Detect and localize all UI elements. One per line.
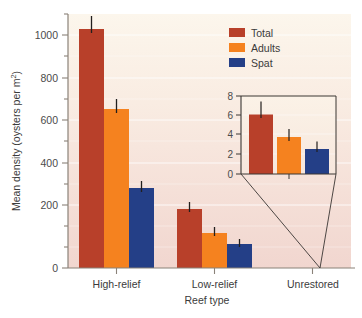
- y-tick-label-600: 600: [40, 114, 58, 126]
- x-label-low-relief: Low-relief: [192, 278, 238, 290]
- y-tick-label-800: 800: [40, 72, 58, 84]
- svg-text:Mean density (oysters per m2): Mean density (oysters per m2): [9, 71, 22, 211]
- bar-high-relief-total: [79, 29, 104, 268]
- bar-low-relief-total: [177, 209, 202, 268]
- legend-swatch-total: [229, 28, 245, 37]
- y-axis-title: Mean density (oysters per m2): [9, 71, 22, 211]
- bar-low-relief-spat: [227, 244, 252, 268]
- y-tick-label-200: 200: [40, 199, 58, 211]
- inset-bar-total: [249, 115, 273, 175]
- legend-label-spat: Spat: [251, 57, 273, 69]
- figure-container: 1000 800 600 400 200 0 Mean density (oys…: [0, 0, 362, 318]
- y-tick-label-1000: 1000: [35, 29, 59, 41]
- y-tick-label-0: 0: [52, 262, 58, 274]
- x-axis-category-labels: High-relief Low-relief Unrestored: [93, 278, 340, 290]
- legend-swatch-adults: [229, 43, 245, 52]
- inset-tick-label-0: 0: [227, 169, 233, 180]
- x-axis-title: Reef type: [185, 294, 230, 306]
- legend-swatch-spat: [229, 58, 245, 67]
- y-axis-title-main: Mean density (oysters per m: [10, 78, 22, 211]
- x-label-high-relief: High-relief: [93, 278, 141, 290]
- y-axis-title-tail: ): [10, 71, 22, 75]
- inset-chart: 8 6 4 2 0: [227, 91, 336, 180]
- inset-tick-label-8: 8: [227, 91, 233, 102]
- inset-tick-label-2: 2: [227, 149, 233, 160]
- legend-label-adults: Adults: [251, 42, 280, 54]
- inset-tick-label-6: 6: [227, 110, 233, 121]
- legend-label-total: Total: [251, 27, 273, 39]
- legend: Total Adults Spat: [229, 27, 280, 69]
- y-tick-label-400: 400: [40, 157, 58, 169]
- bar-low-relief-adults: [202, 233, 227, 268]
- bar-high-relief-adults: [104, 109, 129, 268]
- inset-bar-adults: [277, 137, 301, 174]
- bar-chart-svg: 1000 800 600 400 200 0 Mean density (oys…: [0, 0, 362, 318]
- bar-high-relief-spat: [129, 188, 154, 268]
- inset-bar-spat: [305, 149, 329, 174]
- inset-tick-label-4: 4: [227, 129, 233, 140]
- x-label-unrestored: Unrestored: [287, 278, 339, 290]
